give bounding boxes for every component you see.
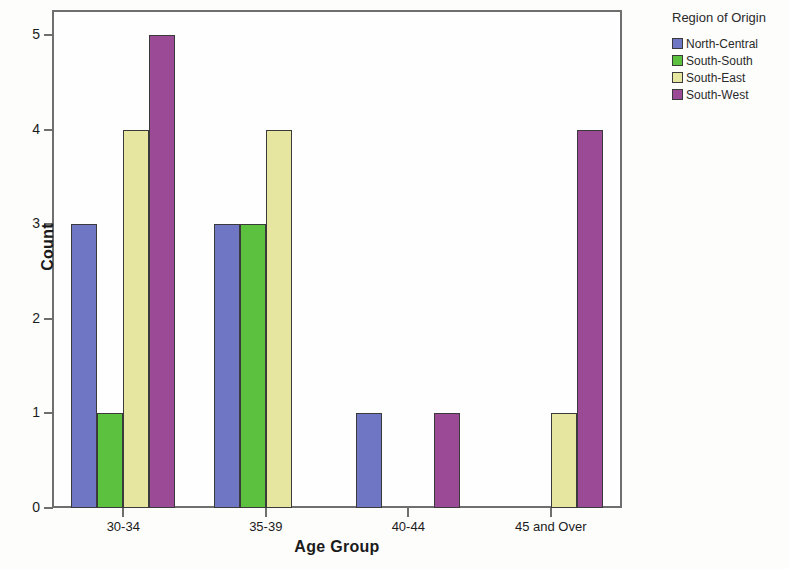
y-axis-tick-label: 0 <box>16 499 40 515</box>
y-axis-tick-mark <box>44 318 53 320</box>
x-axis-tick-mark <box>265 508 267 517</box>
legend-swatch-icon <box>672 89 683 100</box>
bar <box>551 413 577 508</box>
legend-swatch-icon <box>672 38 683 49</box>
legend: Region of Origin North-CentralSouth-Sout… <box>672 10 789 103</box>
legend-item[interactable]: South-South <box>672 52 789 69</box>
y-axis-tick-mark <box>44 34 53 36</box>
y-axis-tick-label: 1 <box>16 404 40 420</box>
bar <box>356 413 382 508</box>
legend-item-label: South-West <box>686 88 748 102</box>
y-axis-tick-mark <box>44 507 53 509</box>
bar <box>123 130 149 508</box>
legend-item[interactable]: South-East <box>672 69 789 86</box>
legend-item-label: South-East <box>686 71 745 85</box>
bar <box>214 224 240 508</box>
legend-swatch-icon <box>672 72 683 83</box>
x-axis-title: Age Group <box>52 538 622 556</box>
legend-swatch-icon <box>672 55 683 66</box>
y-axis-tick-label: 4 <box>16 121 40 137</box>
y-axis-tick-mark <box>44 129 53 131</box>
x-axis-tick-label: 40-44 <box>338 519 478 534</box>
bar <box>266 130 292 508</box>
y-axis-tick-label: 5 <box>16 26 40 42</box>
y-axis-tick-mark <box>44 412 53 414</box>
legend-items: North-CentralSouth-SouthSouth-EastSouth-… <box>672 35 789 103</box>
legend-title: Region of Origin <box>672 10 789 25</box>
bar <box>434 413 460 508</box>
bar <box>240 224 266 508</box>
legend-item[interactable]: North-Central <box>672 35 789 52</box>
bar <box>577 130 603 508</box>
bar <box>149 35 175 508</box>
y-axis-tick-label: 3 <box>16 215 40 231</box>
x-axis-tick-label: 30-34 <box>53 519 193 534</box>
legend-item-label: South-South <box>686 54 753 68</box>
bar <box>71 224 97 508</box>
x-axis-tick-label: 35-39 <box>196 519 336 534</box>
y-axis-tick-label: 2 <box>16 310 40 326</box>
legend-item-label: North-Central <box>686 37 758 51</box>
x-axis-tick-mark <box>122 508 124 517</box>
x-axis-tick-mark <box>550 508 552 517</box>
x-axis-tick-mark <box>407 508 409 517</box>
x-axis-tick-label: 45 and Over <box>481 519 621 534</box>
chart-figure: 012345 Count Age Group Region of Origin … <box>0 0 789 569</box>
bar <box>97 413 123 508</box>
y-axis-title: Count <box>39 187 57 307</box>
legend-item[interactable]: South-West <box>672 86 789 103</box>
